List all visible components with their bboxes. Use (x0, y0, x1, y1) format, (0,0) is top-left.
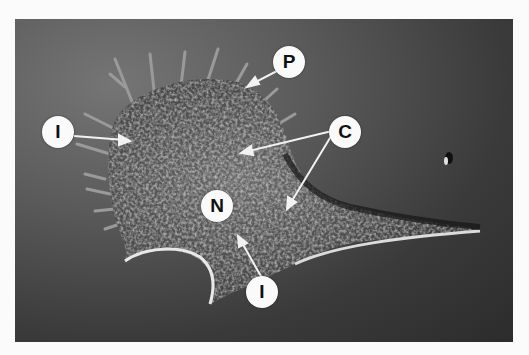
label-i-upper: I (42, 116, 74, 148)
label-n: N (201, 190, 233, 222)
label-c: C (329, 116, 361, 148)
cell-edge-highlight (125, 249, 213, 304)
micrograph-photo: P I C N I (15, 19, 513, 342)
label-i-lower: I (246, 276, 278, 308)
label-p: P (273, 46, 305, 78)
